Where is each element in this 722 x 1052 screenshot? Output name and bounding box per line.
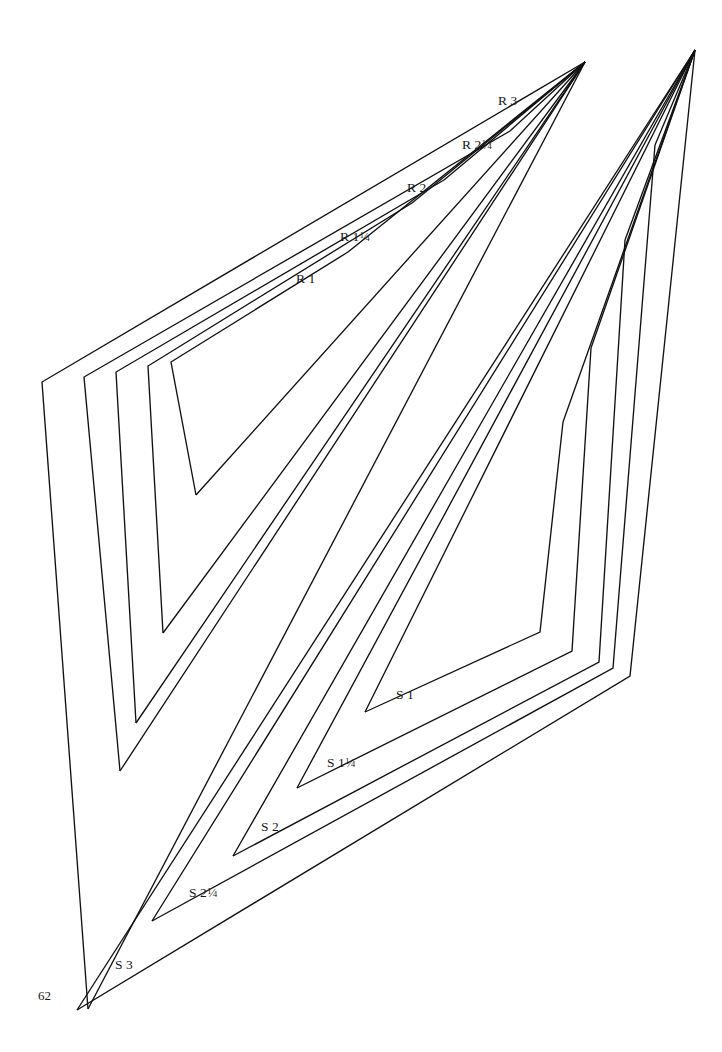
outline-s-1: [365, 422, 563, 712]
size-label-prefix: S: [261, 819, 269, 834]
size-label-prefix: S: [396, 687, 404, 702]
outline-close-r-2: [136, 62, 585, 723]
size-label-value: 1: [309, 271, 316, 286]
size-label-prefix: R: [340, 229, 350, 244]
outline-close-r-3: [88, 62, 585, 1009]
outline-s-2: [233, 240, 625, 856]
size-label-value: 11⁄4: [338, 755, 356, 770]
size-label-prefix: R: [407, 180, 417, 195]
size-label-r-1: R11⁄4: [340, 230, 370, 244]
size-label-value: 21⁄4: [475, 137, 493, 152]
size-label-value: 2: [272, 819, 279, 834]
size-label-prefix: R: [462, 137, 472, 152]
chevron-template-drawing: [0, 0, 722, 1052]
size-label-value: 2: [420, 180, 427, 195]
figure-plate: [0, 0, 722, 1052]
size-label-s-1: S1: [396, 688, 414, 702]
size-label-r-1: R1: [296, 272, 316, 286]
size-label-prefix: S: [327, 755, 335, 770]
size-label-value: 21⁄4: [200, 885, 218, 900]
size-label-s-3: S3: [115, 958, 133, 972]
outline-close-r-2: [120, 62, 585, 771]
chevron-group-s: [77, 50, 695, 1010]
size-label-prefix: R: [296, 271, 306, 286]
page-number: 62: [38, 988, 51, 1004]
outline-close-s-1: [365, 50, 695, 712]
size-label-r-2: R21⁄4: [462, 138, 492, 152]
size-label-s-2: S21⁄4: [189, 886, 218, 900]
size-label-r-2: R2: [407, 181, 427, 195]
size-label-value: 3: [126, 957, 133, 972]
outline-close-s-2: [233, 50, 695, 856]
size-label-prefix: R: [498, 93, 508, 108]
size-label-value: 3: [511, 93, 518, 108]
size-label-r-3: R3: [498, 94, 518, 108]
size-label-s-1: S11⁄4: [327, 756, 356, 770]
size-label-value: 1: [407, 687, 414, 702]
size-label-value: 11⁄4: [353, 229, 371, 244]
outline-close-r-1: [163, 62, 585, 633]
outline-close-s-3: [77, 50, 695, 1010]
size-label-prefix: S: [189, 885, 197, 900]
outline-r-2: [116, 180, 444, 723]
size-label-prefix: S: [115, 957, 123, 972]
size-label-s-2: S2: [261, 820, 279, 834]
